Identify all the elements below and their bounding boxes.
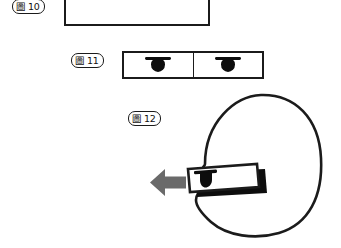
figure-11-label-cjk: 圖: [75, 56, 85, 66]
left-arrow-icon: [149, 168, 187, 197]
figure-12-label-cjk: 圖: [132, 114, 142, 124]
device-rectangle-with-shadow: [185, 160, 273, 204]
dome-bulb-shape: [221, 58, 235, 72]
figure-12-label: 圖 12: [128, 111, 161, 126]
figure-11-label: 圖 11: [71, 53, 104, 68]
figure-11-label-number: 11: [87, 56, 99, 66]
device-body-shape: [188, 164, 259, 192]
figure-11-rectangle: [122, 51, 264, 79]
figure-10-rectangle: [64, 0, 210, 26]
dome-bulb-shape: [151, 58, 165, 72]
figure-sheet: 圖 10 圖 11: [0, 0, 341, 248]
figure-11-right-cell: [193, 53, 263, 77]
figure-10-label-cjk: 圖: [16, 2, 26, 12]
dome-icon: [215, 56, 241, 74]
figure-10-label-number: 10: [28, 2, 40, 12]
dome-icon: [145, 56, 171, 74]
figure-10-label: 圖 10: [12, 0, 45, 14]
figure-11-left-cell: [124, 53, 193, 77]
figure-12-label-number: 12: [144, 114, 156, 124]
